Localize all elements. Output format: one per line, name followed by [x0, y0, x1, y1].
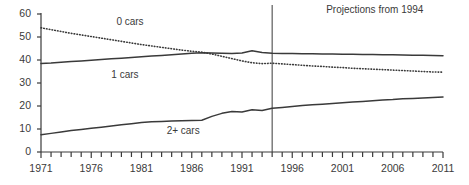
data-series	[41, 28, 443, 135]
series-label-2-cars: 2+ cars	[167, 125, 200, 136]
y-axis-tick-label: 10	[9, 122, 31, 134]
series-line-0-cars	[41, 28, 443, 72]
x-axis-tick-label: 1986	[172, 162, 212, 174]
x-axis-tick-label: 1991	[222, 162, 262, 174]
tick-marks	[37, 14, 443, 158]
chart-container: 0102030405060 19711976198119861991199620…	[0, 0, 469, 185]
series-label-1-cars: 1 cars	[111, 69, 138, 80]
series-label-0-cars: 0 cars	[116, 16, 143, 27]
x-axis-tick-label: 1971	[21, 162, 61, 174]
x-axis-tick-label: 1981	[122, 162, 162, 174]
series-line-2-cars	[41, 97, 443, 135]
x-axis-tick-label: 1996	[272, 162, 312, 174]
axes	[41, 13, 443, 152]
y-axis-tick-label: 30	[9, 76, 31, 88]
y-axis-tick-label: 0	[9, 145, 31, 157]
x-axis-tick-label: 2011	[423, 162, 463, 174]
x-axis-tick-label: 1976	[71, 162, 111, 174]
projection-annotation-label: Projections from 1994	[326, 4, 423, 15]
y-axis-tick-label: 40	[9, 53, 31, 65]
x-axis-tick-label: 2001	[323, 162, 363, 174]
y-axis-tick-label: 50	[9, 30, 31, 42]
y-axis-tick-label: 60	[9, 7, 31, 19]
x-axis-tick-label: 2006	[373, 162, 413, 174]
chart-plot-area	[0, 0, 469, 185]
y-axis-tick-label: 20	[9, 99, 31, 111]
